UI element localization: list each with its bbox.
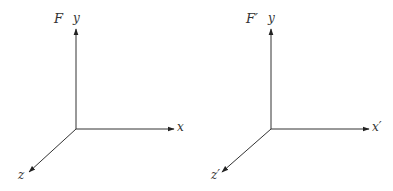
frame-f — [29, 29, 174, 172]
frame-f-prime-y-label: y — [268, 12, 275, 24]
frame-f-z-axis — [29, 129, 76, 172]
frame-f-prime-label: F′ — [246, 12, 258, 25]
frame-f-prime-z-label: z′ — [211, 169, 220, 181]
frame-f-z-label: z — [18, 169, 24, 181]
coordinate-frames-diagram — [0, 0, 393, 191]
frame-f-prime-x-label: x′ — [372, 121, 382, 133]
frame-f-label: F — [54, 12, 63, 25]
frame-f-prime — [222, 29, 369, 172]
frame-f-x-label: x — [177, 121, 184, 133]
frame-f-prime-z-axis — [222, 129, 271, 172]
frame-f-y-label: y — [73, 12, 80, 24]
